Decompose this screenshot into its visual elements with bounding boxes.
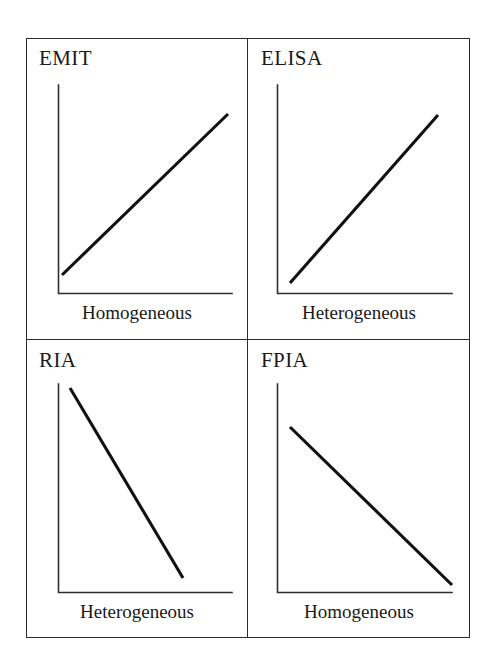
data-line-elisa	[290, 115, 438, 283]
panel-emit: EMIT Homogeneous	[26, 38, 248, 339]
data-line-emit	[62, 114, 228, 275]
xaxis-label-fpia: Homogeneous	[248, 601, 470, 623]
plot-elisa	[248, 38, 470, 339]
data-line-ria	[70, 388, 183, 578]
data-line-fpia	[290, 427, 452, 585]
axes-emit	[59, 85, 233, 294]
assay-comparison-figure: EMIT Homogeneous ELISA Heterogeneous RIA…	[0, 0, 488, 665]
xaxis-label-ria: Heterogeneous	[26, 601, 248, 623]
panel-ria: RIA Heterogeneous	[26, 340, 248, 638]
plot-ria	[26, 340, 248, 638]
plot-emit	[26, 38, 248, 339]
xaxis-label-emit: Homogeneous	[26, 302, 248, 324]
panel-elisa: ELISA Heterogeneous	[248, 38, 470, 339]
plot-fpia	[248, 340, 470, 638]
panel-fpia: FPIA Homogeneous	[248, 340, 470, 638]
axes-elisa	[278, 85, 453, 294]
xaxis-label-elisa: Heterogeneous	[248, 302, 470, 324]
